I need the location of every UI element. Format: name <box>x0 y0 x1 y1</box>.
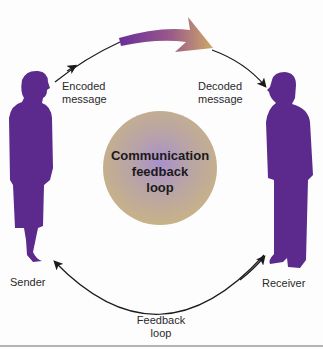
center-label-line2: feedback <box>100 164 220 180</box>
receiver-figure-icon <box>266 72 313 268</box>
receiver-label: Receiver <box>262 277 322 290</box>
center-circle-label: Communication feedback loop <box>100 148 220 196</box>
encoded-line2: message <box>62 93 137 106</box>
decoded-line1: Decoded <box>198 80 258 93</box>
feedback-arc-icon <box>55 255 264 314</box>
message-arrow-icon <box>119 17 213 52</box>
center-label-line3: loop <box>100 180 220 196</box>
decoded-line2: message <box>198 93 258 106</box>
feedback-arrow-right-icon <box>240 257 264 280</box>
encoded-message-label: Encoded message <box>62 80 137 106</box>
feedback-line2: loop <box>130 327 192 340</box>
decoded-message-label: Decoded message <box>198 80 258 106</box>
center-label-line1: Communication <box>100 148 220 164</box>
feedback-loop-label: Feedback loop <box>130 314 192 340</box>
feedback-line1: Feedback <box>130 314 192 327</box>
sender-label: Sender <box>10 276 60 289</box>
encoded-arc-line <box>55 42 120 82</box>
sender-figure-icon <box>9 71 53 262</box>
communication-diagram: Communication feedback loop Encoded mess… <box>0 0 323 349</box>
encoded-line1: Encoded <box>62 80 137 93</box>
